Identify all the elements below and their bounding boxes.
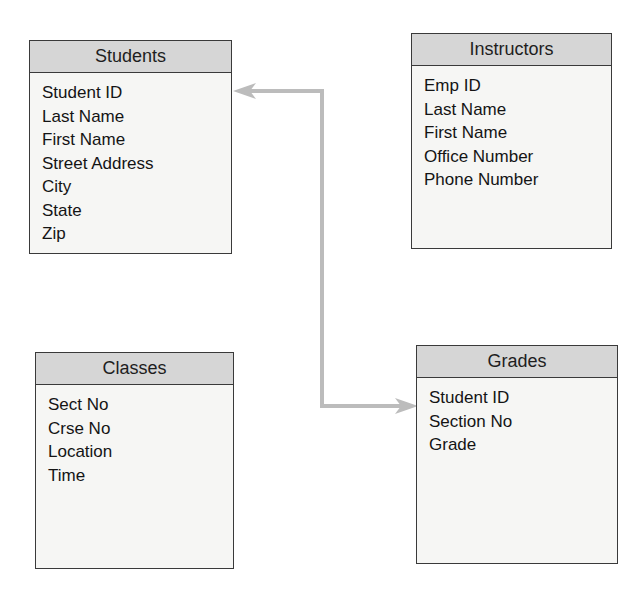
field: Last Name [42, 105, 231, 129]
field: State [42, 199, 231, 223]
field: Grade [429, 433, 617, 457]
field: Section No [429, 410, 617, 434]
field: Zip [42, 222, 231, 246]
entity-grades[interactable]: Grades Student ID Section No Grade [416, 345, 618, 564]
entity-title: Students [30, 41, 231, 73]
field: First Name [42, 128, 231, 152]
entity-title: Classes [36, 353, 233, 385]
field: Time [48, 464, 233, 488]
entity-students[interactable]: Students Student ID Last Name First Name… [29, 40, 232, 254]
field: Student ID [42, 81, 231, 105]
field: Office Number [424, 145, 611, 169]
field: City [42, 175, 231, 199]
field: Phone Number [424, 168, 611, 192]
entity-title: Instructors [412, 34, 611, 66]
field: Emp ID [424, 74, 611, 98]
field: Sect No [48, 393, 233, 417]
entity-instructors[interactable]: Instructors Emp ID Last Name First Name … [411, 33, 612, 249]
field: Crse No [48, 417, 233, 441]
entity-title: Grades [417, 346, 617, 378]
field: Last Name [424, 98, 611, 122]
entity-classes[interactable]: Classes Sect No Crse No Location Time [35, 352, 234, 569]
field: Location [48, 440, 233, 464]
field: First Name [424, 121, 611, 145]
field: Street Address [42, 152, 231, 176]
field: Student ID [429, 386, 617, 410]
